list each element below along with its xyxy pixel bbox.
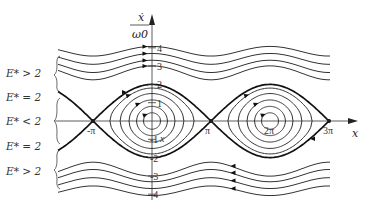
trajectory-group: [58, 44, 331, 195]
rotation-trajectory: [58, 162, 330, 176]
region-label-upper-separatrix: E* = 2: [5, 91, 41, 103]
y-tick-label: 1: [157, 98, 162, 109]
region-labels: E* > 2 E* = 2 E* < 2 E* = 2 E* > 2: [5, 56, 60, 189]
x-axis-label: x: [352, 127, 359, 140]
y-tick-label: 2: [157, 79, 162, 90]
direction-arrow-icon: [143, 64, 148, 68]
y-tick-label: -4: [150, 189, 158, 200]
brace-upper: [54, 56, 60, 92]
y-axis-arrow-icon: [149, 14, 155, 25]
direction-arrow-icon: [231, 164, 236, 168]
rotation-trajectory: [58, 186, 330, 196]
brace-lower: [54, 150, 60, 189]
region-label-upper-rotation: E* > 2: [5, 67, 41, 79]
x-tick-label: 3π: [323, 125, 333, 136]
x-tick-label: -π: [87, 125, 95, 136]
orbit-arrow-icon: [260, 112, 266, 118]
x-tick-inline-label: x: [159, 133, 165, 144]
y-axis-label-numerator: ẋ: [138, 11, 145, 24]
direction-arrow-icon: [231, 178, 236, 182]
rotation-trajectory: [58, 46, 330, 56]
separatrix: [58, 84, 330, 121]
rotation-trajectory: [58, 66, 330, 80]
separatrix: [58, 121, 330, 158]
region-label-lower-rotation: E* > 2: [5, 165, 41, 177]
direction-arrow-icon: [143, 58, 148, 62]
y-tick-label: -2: [150, 153, 158, 164]
phase-portrait: 4321-1-2-3-4x-ππ2π3π x ẋ ω0 E* > 2 E* = …: [0, 0, 375, 216]
y-tick-label: 3: [157, 61, 162, 72]
region-label-libration: E* < 2: [5, 115, 41, 127]
y-tick-label: -3: [150, 171, 158, 182]
y-axis-label-denominator: ω0: [132, 28, 148, 41]
orbit-arrow-icon: [142, 112, 148, 118]
x-tick-label: 2π: [264, 125, 274, 136]
x-tick-label: π: [205, 125, 210, 136]
y-tick-label: -1: [150, 134, 158, 145]
x-axis-arrow-icon: [348, 118, 358, 124]
direction-arrow-icon: [231, 186, 236, 190]
direction-arrow-icon: [231, 171, 236, 175]
region-label-lower-separatrix: E* = 2: [5, 140, 41, 152]
direction-arrow-icon: [143, 44, 148, 48]
direction-arrow-icon: [143, 51, 148, 55]
y-tick-label: 4: [157, 43, 162, 54]
